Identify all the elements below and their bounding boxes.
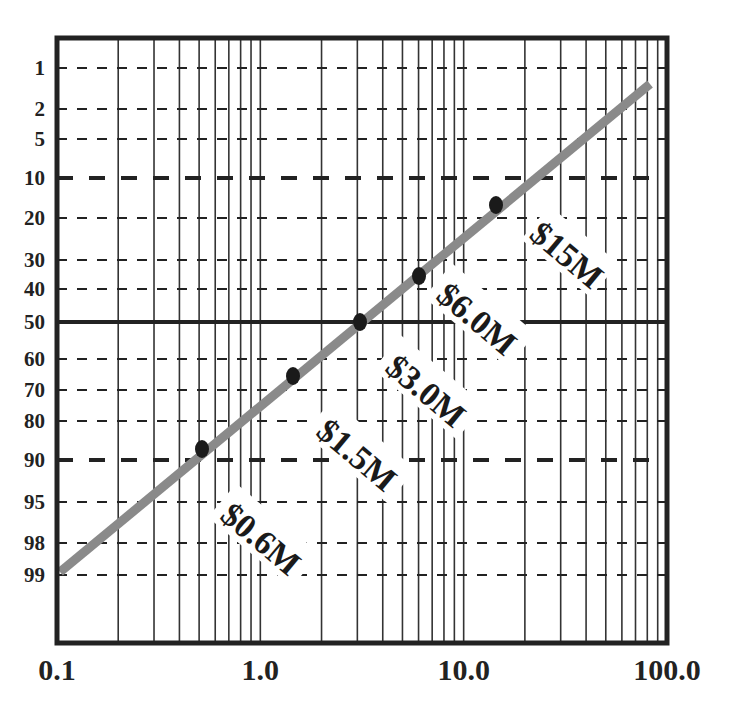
y-tick-label: 10 [24, 166, 45, 190]
y-tick-label: 5 [35, 127, 46, 151]
point-label: $0.6M [207, 484, 319, 589]
point-label: $6.0M [423, 264, 535, 369]
point-label: $3.0M [372, 336, 484, 441]
y-tick-label: 40 [24, 277, 45, 301]
probability-chart: 125102030405060708090959899 0.11.010.010… [0, 0, 740, 707]
data-point [286, 367, 300, 385]
y-tick-label: 50 [24, 310, 45, 334]
y-tick-label: 99 [24, 563, 45, 587]
y-tick-label: 1 [35, 56, 46, 80]
data-point [412, 267, 426, 285]
x-tick-label: 100.0 [633, 653, 701, 686]
data-point [489, 196, 503, 214]
y-axis-tick-labels: 125102030405060708090959899 [24, 56, 45, 587]
vertical-gridlines [118, 38, 657, 643]
y-tick-label: 60 [24, 347, 45, 371]
y-tick-label: 90 [24, 448, 45, 472]
x-tick-label: 0.1 [38, 653, 76, 686]
y-tick-label: 98 [24, 531, 45, 555]
x-tick-label: 10.0 [437, 653, 490, 686]
y-tick-label: 20 [24, 206, 45, 230]
data-point [353, 313, 367, 331]
x-tick-label: 1.0 [242, 653, 280, 686]
y-tick-label: 80 [24, 409, 45, 433]
plot-frame [57, 38, 667, 643]
y-tick-label: 30 [24, 248, 45, 272]
point-label: $1.5M [303, 400, 415, 505]
y-tick-label: 2 [35, 97, 46, 121]
data-point [195, 440, 209, 458]
y-tick-label: 95 [24, 490, 45, 514]
x-axis-tick-labels: 0.11.010.0100.0 [38, 653, 701, 686]
point-label: $15M [521, 206, 619, 298]
y-tick-label: 70 [24, 378, 45, 402]
